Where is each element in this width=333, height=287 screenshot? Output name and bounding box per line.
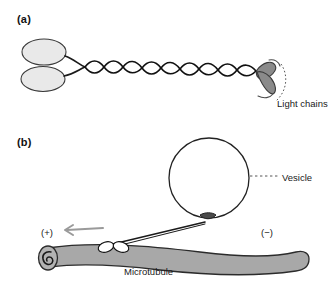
motor-head-upper-icon — [22, 39, 66, 65]
light-chain-bracket-lower — [258, 94, 273, 98]
neck-upper — [65, 56, 85, 67]
movement-arrow-icon — [65, 225, 103, 235]
kinesin-figure: (a) (b) Light chains Vesicle Microtubule… — [0, 0, 333, 287]
vesicle-label: Vesicle — [282, 172, 312, 183]
vesicle-icon — [169, 138, 249, 218]
microtubule-label: Microtubule — [124, 266, 173, 277]
light-chain-lower-icon — [257, 72, 275, 94]
kinesin-stalk-shadow — [113, 224, 205, 247]
minus-end-label: (−) — [261, 227, 273, 238]
panel-a-label: (a) — [17, 13, 31, 25]
motor-head-lower-icon — [21, 67, 65, 92]
microtubule-body — [47, 245, 309, 275]
plus-end-label: (+) — [41, 227, 53, 238]
panel-a-graphics — [0, 0, 333, 287]
panel-b-label: (b) — [17, 136, 32, 148]
neck-lower — [64, 67, 85, 76]
light-chains-label: Light chains — [277, 98, 328, 109]
light-chains-leader — [276, 64, 286, 101]
kinesin-stalk — [113, 222, 205, 244]
